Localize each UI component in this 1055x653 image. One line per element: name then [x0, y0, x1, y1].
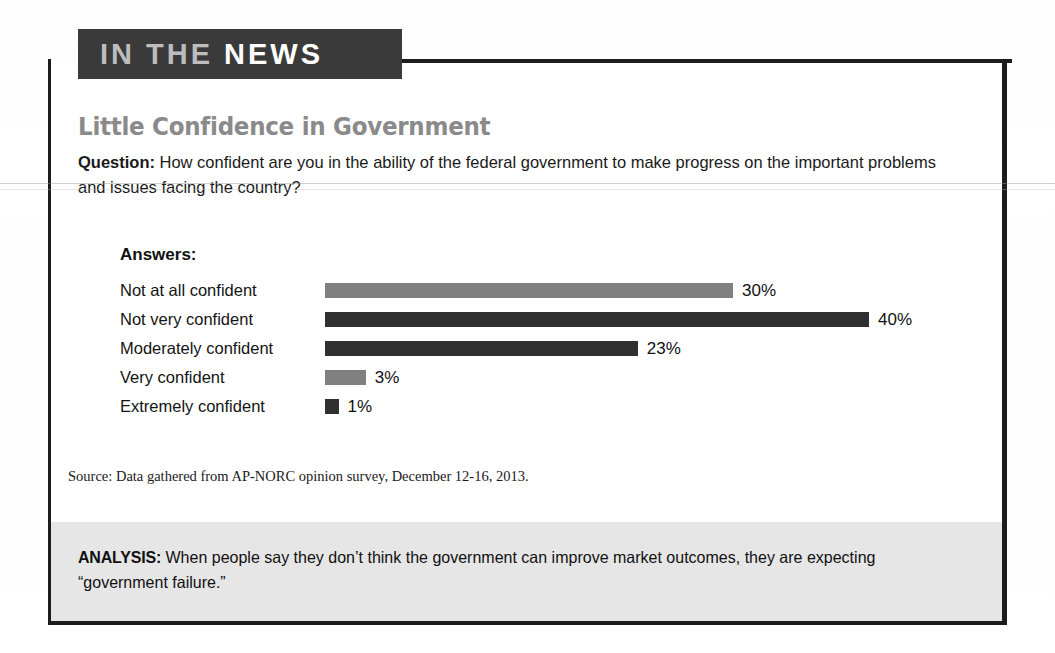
- chart-bar-value: 40%: [878, 310, 912, 330]
- chart-bar: [325, 341, 638, 356]
- scan-artifact-line-secondary: [0, 189, 1055, 190]
- chart-row-label: Very confident: [120, 368, 325, 387]
- question-label: Question:: [78, 153, 155, 172]
- page-title: Little Confidence in Government: [78, 112, 490, 141]
- chart-row: Extremely confident1%: [120, 392, 980, 421]
- chart-row-label: Not at all confident: [120, 281, 325, 300]
- analysis-block: ANALYSIS: When people say they don’t thi…: [78, 545, 941, 595]
- chart-bar: [325, 312, 869, 327]
- question-text: How confident are you in the ability of …: [78, 153, 936, 197]
- chart-row-label: Extremely confident: [120, 397, 325, 416]
- chart-row: Not very confident40%: [120, 305, 980, 334]
- analysis-label: ANALYSIS:: [78, 548, 161, 566]
- box-top-border: [400, 59, 1012, 63]
- question-block: Question: How confident are you in the a…: [78, 150, 941, 200]
- chart-row: Moderately confident23%: [120, 334, 980, 363]
- chart-bar-value: 1%: [348, 397, 373, 417]
- chart-bar-value: 3%: [375, 368, 400, 388]
- chart-bar-wrap: 3%: [325, 368, 980, 388]
- banner-word-in-the: IN THE: [100, 38, 213, 71]
- chart-bar-wrap: 40%: [325, 310, 980, 330]
- chart-bar-wrap: 30%: [325, 281, 980, 301]
- analysis-text: When people say they don’t think the gov…: [78, 548, 875, 591]
- chart-bar: [325, 283, 733, 298]
- chart-bar-wrap: 23%: [325, 339, 980, 359]
- scan-artifact-line: [0, 183, 1055, 184]
- chart-bar-wrap: 1%: [325, 397, 980, 417]
- chart-bar: [325, 370, 366, 385]
- banner-word-news: NEWS: [224, 38, 323, 71]
- chart-row: Very confident3%: [120, 363, 980, 392]
- confidence-bar-chart: Not at all confident30%Not very confiden…: [120, 276, 980, 421]
- chart-row-label: Not very confident: [120, 310, 325, 329]
- chart-row: Not at all confident30%: [120, 276, 980, 305]
- chart-row-label: Moderately confident: [120, 339, 325, 358]
- chart-bar: [325, 399, 339, 414]
- source-note: Source: Data gathered from AP-NORC opini…: [68, 468, 529, 485]
- answers-label: Answers:: [120, 245, 197, 265]
- in-the-news-banner: IN THE NEWS: [78, 29, 402, 79]
- chart-bar-value: 23%: [647, 339, 681, 359]
- chart-bar-value: 30%: [742, 281, 776, 301]
